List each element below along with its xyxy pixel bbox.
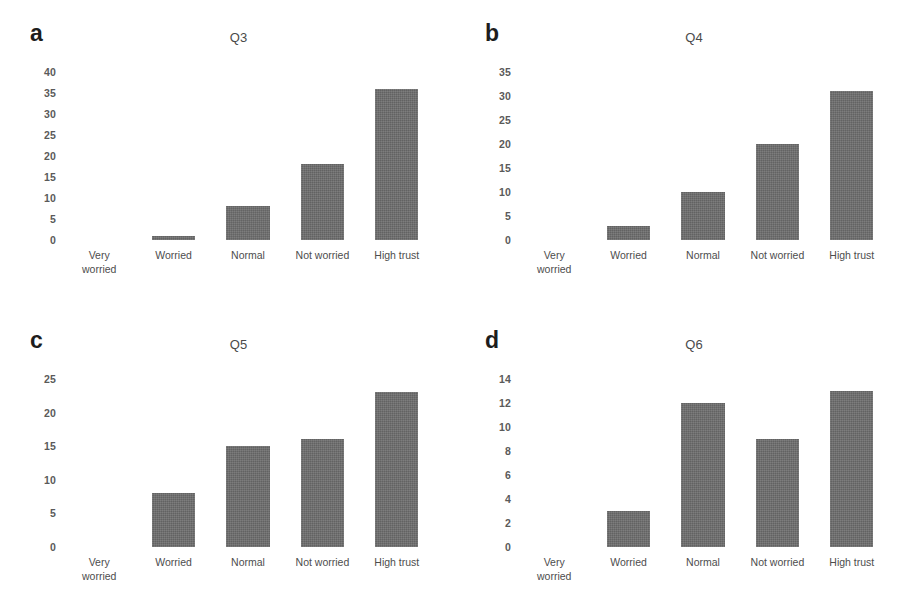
x-axis-label: Not worried <box>285 248 359 276</box>
y-tick-label: 8 <box>455 445 511 457</box>
bar-slot <box>740 72 814 240</box>
x-axis-label: Not worried <box>740 555 814 583</box>
panel-c: c Q5 2520151050 Very worriedWorriedNorma… <box>0 307 455 614</box>
x-axis-label: Normal <box>211 555 285 583</box>
bar-slot <box>360 72 434 240</box>
x-axis-labels-a: Very worriedWorriedNormalNot worriedHigh… <box>62 248 434 276</box>
x-axis-labels-d: Very worriedWorriedNormalNot worriedHigh… <box>517 555 889 583</box>
x-axis-labels-b: Very worriedWorriedNormalNot worriedHigh… <box>517 248 889 276</box>
panel-title-q6: Q6 <box>455 337 911 352</box>
bar <box>681 192 724 240</box>
bar-group-c <box>62 379 434 547</box>
bar <box>301 439 344 547</box>
x-axis-label: High trust <box>360 555 434 583</box>
y-tick-label: 5 <box>0 507 56 519</box>
y-tick-label: 10 <box>0 192 56 204</box>
y-tick-label: 15 <box>0 171 56 183</box>
bar <box>375 89 418 240</box>
figure-multi-panel-bar-charts: a Q3 4035302520151050 Very worriedWorrie… <box>0 0 911 614</box>
x-axis-label: Not worried <box>285 555 359 583</box>
bar-slot <box>285 72 359 240</box>
x-axis-label: Normal <box>211 248 285 276</box>
y-tick-label: 6 <box>455 469 511 481</box>
y-tick-label: 35 <box>0 87 56 99</box>
bar-slot <box>285 379 359 547</box>
y-tick-label: 0 <box>0 234 56 246</box>
bar <box>607 511 650 547</box>
bar <box>756 439 799 547</box>
x-axis-label: Worried <box>136 248 210 276</box>
panel-b: b Q4 35302520151050 Very worriedWorriedN… <box>455 0 911 307</box>
bar-slot <box>740 379 814 547</box>
bar <box>152 236 195 240</box>
x-axis-label: Worried <box>591 555 665 583</box>
y-tick-label: 40 <box>0 66 56 78</box>
bar-slot <box>517 379 591 547</box>
bar-slot <box>136 72 210 240</box>
y-tick-label: 10 <box>0 474 56 486</box>
y-tick-label: 10 <box>455 186 511 198</box>
x-axis-label: High trust <box>815 555 889 583</box>
panel-title-q4: Q4 <box>455 30 911 45</box>
x-axis-label: Very worried <box>62 248 136 276</box>
x-axis-label: Not worried <box>740 248 814 276</box>
bar-slot <box>211 72 285 240</box>
x-axis-label: Very worried <box>517 248 591 276</box>
bar-slot <box>591 379 665 547</box>
x-axis-label: Worried <box>136 555 210 583</box>
plot-area-c <box>62 379 434 547</box>
x-axis-label: High trust <box>815 248 889 276</box>
y-tick-label: 20 <box>0 407 56 419</box>
y-tick-label: 15 <box>0 440 56 452</box>
y-tick-label: 30 <box>0 108 56 120</box>
bar-slot <box>136 379 210 547</box>
y-tick-label: 10 <box>455 421 511 433</box>
y-tick-label: 25 <box>0 373 56 385</box>
y-tick-label: 35 <box>455 66 511 78</box>
bar <box>830 391 873 547</box>
bar <box>681 403 724 547</box>
y-tick-label: 5 <box>455 210 511 222</box>
y-tick-label: 12 <box>455 397 511 409</box>
bar-group-d <box>517 379 889 547</box>
panel-a: a Q3 4035302520151050 Very worriedWorrie… <box>0 0 455 307</box>
bar-slot <box>62 379 136 547</box>
bar-slot <box>666 379 740 547</box>
y-tick-label: 0 <box>0 541 56 553</box>
panel-title-q5: Q5 <box>0 337 455 352</box>
y-tick-label: 25 <box>455 114 511 126</box>
panel-title-q3: Q3 <box>0 30 455 45</box>
y-tick-label: 30 <box>455 90 511 102</box>
y-tick-label: 5 <box>0 213 56 225</box>
bar-slot <box>591 72 665 240</box>
y-tick-label: 20 <box>455 138 511 150</box>
bar-slot <box>815 379 889 547</box>
y-tick-label: 0 <box>455 234 511 246</box>
bar-slot <box>666 72 740 240</box>
bar <box>226 206 269 240</box>
x-axis-label: Normal <box>666 555 740 583</box>
bar-slot <box>211 379 285 547</box>
bar-slot <box>815 72 889 240</box>
bar <box>226 446 269 547</box>
bar-slot <box>62 72 136 240</box>
bar <box>607 226 650 240</box>
y-axis-c: 2520151050 <box>0 379 56 547</box>
y-tick-label: 15 <box>455 162 511 174</box>
y-tick-label: 20 <box>0 150 56 162</box>
bar <box>375 392 418 547</box>
y-tick-label: 14 <box>455 373 511 385</box>
x-axis-label: Very worried <box>62 555 136 583</box>
x-axis-label: High trust <box>360 248 434 276</box>
bar <box>152 493 195 547</box>
x-axis-label: Worried <box>591 248 665 276</box>
plot-area-a <box>62 72 434 240</box>
bar-group-a <box>62 72 434 240</box>
y-tick-label: 0 <box>455 541 511 553</box>
bar-group-b <box>517 72 889 240</box>
bar <box>301 164 344 240</box>
y-tick-label: 2 <box>455 517 511 529</box>
bar <box>756 144 799 240</box>
plot-area-b <box>517 72 889 240</box>
panel-d: d Q6 14121086420 Very worriedWorriedNorm… <box>455 307 911 614</box>
